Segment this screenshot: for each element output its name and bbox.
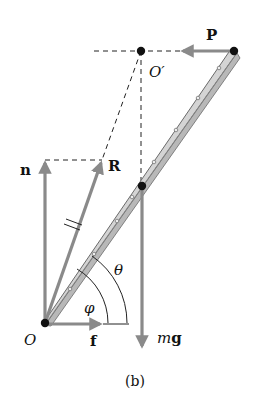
label-p: P (206, 26, 217, 44)
label-o: O (24, 331, 36, 349)
point-p-end (230, 47, 238, 55)
label-r: R (108, 157, 121, 175)
label-f: f (90, 332, 98, 350)
ladder-free-body-diagram: P O′ n R O f θ φ mg (b) (0, 0, 253, 409)
label-phi: φ (84, 299, 95, 317)
point-o-prime (137, 47, 145, 55)
label-theta: θ (114, 261, 123, 279)
label-mg: mg (157, 329, 182, 347)
dashed-line-oprime-to-r (102, 51, 141, 160)
label-n: n (20, 161, 31, 179)
point-center-of-mass (138, 182, 146, 190)
figure-caption: (b) (125, 373, 145, 389)
point-o (41, 319, 49, 327)
label-o-prime: O′ (149, 63, 165, 81)
